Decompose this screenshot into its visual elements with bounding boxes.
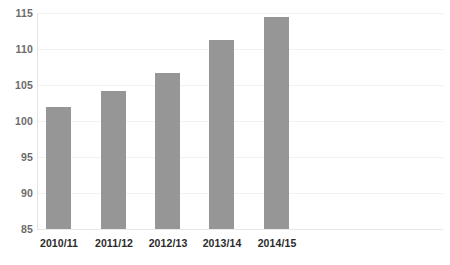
bar-2012-13 — [155, 73, 180, 229]
x-tick-label-2014-15: 2014/15 — [242, 237, 312, 249]
gridline-95 — [38, 157, 443, 158]
gridline-85-baseline — [38, 229, 443, 230]
y-tick-label-105: 105 — [0, 80, 33, 91]
plot-area — [38, 13, 443, 229]
bar-2011-12 — [101, 91, 126, 229]
gridline-90 — [38, 193, 443, 194]
gridline-115 — [38, 13, 443, 14]
gridline-105 — [38, 85, 443, 86]
gridline-110 — [38, 49, 443, 50]
bar-2014-15 — [264, 17, 289, 229]
bar-2013-14 — [209, 40, 234, 229]
bar-2010-11 — [46, 107, 71, 229]
y-tick-label-110: 110 — [0, 44, 33, 55]
y-tick-label-100: 100 — [0, 116, 33, 127]
y-tick-label-90: 90 — [0, 188, 33, 199]
y-tick-label-85: 85 — [0, 224, 33, 235]
bar-chart: 115 110 105 100 95 90 85 2010/11 2011/12… — [0, 0, 450, 265]
y-tick-label-115: 115 — [0, 8, 33, 19]
gridline-100 — [38, 121, 443, 122]
y-tick-label-95: 95 — [0, 152, 33, 163]
